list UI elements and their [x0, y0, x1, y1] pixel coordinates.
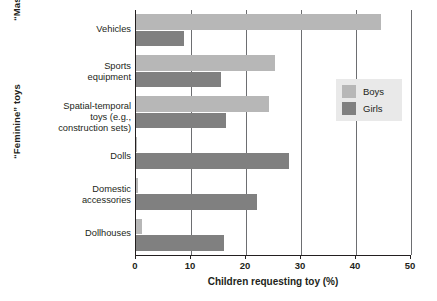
gridline-20: [246, 10, 247, 255]
legend-item-boys: Boys: [342, 84, 384, 98]
bar-dollhouses-boys: [136, 219, 142, 235]
category-label-domestic-line2: accessories: [31, 195, 131, 206]
bar-spatial-temporal-girls: [136, 113, 226, 129]
category-label-spatial-line3: construction sets): [31, 123, 131, 134]
x-tick-label-30: 30: [295, 260, 306, 271]
x-tick-40: [355, 255, 356, 259]
bar-sports-equipment-girls: [136, 72, 221, 88]
legend-label-boys: Boys: [363, 86, 384, 97]
group-label-feminine: “Feminine” toys: [11, 84, 22, 159]
category-label-spatial-line1: Spatial-temporal: [31, 101, 131, 112]
bar-chart: “Masculine” toys “Feminine” toys Vehicle…: [0, 0, 437, 301]
gridline-50: [411, 10, 412, 255]
category-label-domestic-line1: Domestic: [31, 184, 131, 195]
x-tick-label-40: 40: [350, 260, 361, 271]
gridline-30: [301, 10, 302, 255]
category-label-vehicles: Vehicles: [31, 24, 131, 35]
x-tick-10: [190, 255, 191, 259]
legend-item-girls: Girls: [342, 101, 383, 115]
x-tick-label-10: 10: [185, 260, 196, 271]
category-axis-labels: Vehicles Sports equipment Spatial-tempor…: [30, 0, 131, 301]
bar-dolls-girls: [136, 153, 289, 169]
category-label-sports-line1: Sports: [31, 61, 131, 72]
legend: Boys Girls: [336, 79, 402, 121]
x-axis-title: Children requesting toy (%): [135, 276, 411, 287]
plot-area: [135, 10, 410, 255]
x-tick-0: [135, 255, 136, 259]
bar-vehicles-boys: [136, 14, 381, 30]
bar-sports-equipment-boys: [136, 55, 275, 71]
x-tick-50: [410, 255, 411, 259]
gridline-10: [191, 10, 192, 255]
x-tick-label-50: 50: [405, 260, 416, 271]
bar-domestic-accessories-girls: [136, 194, 257, 210]
x-tick-label-20: 20: [240, 260, 251, 271]
bar-domestic-accessories-boys: [136, 178, 138, 194]
legend-label-girls: Girls: [363, 103, 383, 114]
x-tick-30: [300, 255, 301, 259]
x-tick-label-0: 0: [132, 260, 137, 271]
bar-dollhouses-girls: [136, 235, 224, 251]
category-label-dolls: Dolls: [31, 151, 131, 162]
bar-dolls-boys: [136, 137, 137, 153]
group-label-masculine: “Masculine” toys: [11, 0, 22, 21]
category-label-spatial-line2: toys (e.g.,: [31, 112, 131, 123]
bar-spatial-temporal-boys: [136, 96, 269, 112]
category-label-sports-line2: equipment: [31, 72, 131, 83]
legend-swatch-girls-icon: [342, 102, 356, 115]
gridline-40: [356, 10, 357, 255]
x-axis-line: [135, 255, 411, 256]
category-label-dollhouses: Dollhouses: [31, 228, 131, 239]
bar-vehicles-girls: [136, 31, 184, 47]
x-tick-20: [245, 255, 246, 259]
legend-swatch-boys-icon: [342, 85, 356, 98]
